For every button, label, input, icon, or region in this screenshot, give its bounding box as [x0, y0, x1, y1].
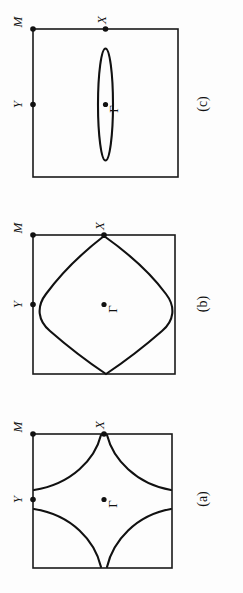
x-point-dot: [101, 431, 107, 437]
panel-caption-b: (b): [195, 296, 211, 313]
panel-c: Γ X Y M (c): [0, 0, 243, 197]
y-point-dot: [30, 497, 36, 503]
x-label: X: [92, 420, 107, 430]
x-label: X: [94, 15, 109, 25]
m-point-dot: [30, 431, 36, 437]
fermi-arc-top-left: [34, 435, 101, 490]
m-label: M: [10, 420, 25, 433]
gamma-label: Γ: [106, 105, 121, 113]
panel-b: Γ X Y M (b): [0, 197, 243, 395]
panel-caption-c: (c): [195, 96, 211, 112]
fermi-arc-top-right: [107, 435, 171, 490]
gamma-label: Γ: [105, 500, 120, 508]
m-label: M: [10, 15, 25, 28]
panel-c-canvas: Γ X Y M (c): [0, 0, 243, 197]
y-point-dot: [30, 102, 36, 108]
y-point-dot: [30, 302, 36, 308]
y-label: Y: [10, 299, 25, 308]
m-label: M: [10, 221, 25, 234]
fermi-arc-bottom-right: [107, 509, 171, 567]
x-label: X: [92, 221, 107, 231]
y-label: Y: [10, 494, 25, 503]
x-point-dot: [101, 232, 107, 238]
panel-a-canvas: Γ X Y M (a): [0, 395, 243, 593]
gamma-label: Γ: [105, 305, 120, 313]
panel-b-canvas: Γ X Y M (b): [0, 197, 243, 395]
panel-caption-a: (a): [195, 491, 211, 507]
m-point-dot: [30, 26, 36, 32]
m-point-dot: [30, 232, 36, 238]
fermi-arc-bottom-left: [34, 509, 101, 567]
panel-a: Γ X Y M (a): [0, 395, 243, 593]
x-point-dot: [103, 26, 109, 32]
figure-root: Γ X Y M (c) Γ X Y M (b): [0, 0, 243, 593]
y-label: Y: [10, 99, 25, 108]
